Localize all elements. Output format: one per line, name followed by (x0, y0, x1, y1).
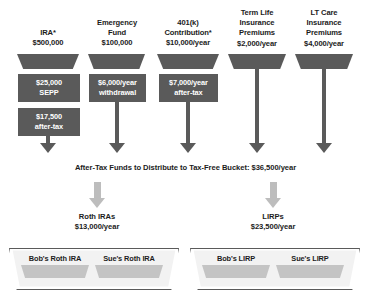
column-header-term-life-line-1: Term Life (220, 8, 294, 18)
column-header-term-life-line-4: $2,000/year (220, 39, 294, 49)
value-box-emergency-fund-withdrawal: $6,000/year withdrawal (89, 74, 146, 102)
value-box-emergency-fund-withdrawal-line-2: withdrawal (99, 88, 136, 99)
column-header-term-life-insurance-premiums: Term Life Insurance Premiums $2,000/year (220, 8, 294, 49)
arrow-down-icon-lt-care (316, 143, 332, 153)
sub-slot-bobs-roth-ira (21, 265, 89, 278)
column-header-ira-line-2: $500,000 (8, 38, 88, 48)
value-box-ira-sepp-line-1: $25,000 (36, 78, 62, 89)
mid-caption-after-tax-funds: After-Tax Funds to Distribute to Tax-Fre… (0, 163, 371, 172)
column-header-lt-care-line-2: Insurance (287, 18, 361, 28)
after-tax-funds-flow-diagram: IRA* $500,000 Emergency Fund $100,000 40… (0, 0, 371, 297)
column-header-emergency-fund-line-1: Emergency (78, 18, 156, 28)
column-header-401k-contribution-line-2: Contribution* (148, 28, 228, 38)
value-box-ira-after-tax-line-1: $17,500 (36, 112, 62, 123)
sub-slot-label-bobs-roth-ira: Bob's Roth IRA (20, 254, 90, 263)
arrow-down-icon-401k (180, 143, 196, 153)
column-header-401k-contribution-line-3: $10,000/year (148, 38, 228, 48)
arrow-down-icon-ira (40, 143, 56, 153)
destination-label-lirps: LIRPs $23,500/year (223, 212, 323, 233)
column-header-401k-contribution: 401(k) Contribution* $10,000/year (148, 18, 228, 49)
column-header-lt-care-insurance-premiums: LT Care Insurance Premiums $4,000/year (287, 8, 361, 49)
connector-stem-401k (186, 102, 190, 144)
sub-slot-sues-lirp (276, 265, 344, 278)
arrow-down-icon-emergency-fund (109, 143, 125, 153)
connector-stem-term-life (255, 69, 259, 144)
value-box-401k-after-tax-line-1: $7,000/year (169, 78, 208, 89)
column-header-lt-care-line-3: Premiums (287, 28, 361, 38)
source-bucket-401k-contribution (157, 54, 219, 69)
value-box-emergency-fund-withdrawal-line-1: $6,000/year (98, 78, 137, 89)
destination-stem-roth-iras (94, 182, 101, 199)
arrow-down-icon-term-life (249, 143, 265, 153)
column-header-ira: IRA* $500,000 (8, 28, 88, 48)
connector-stem-lt-care (322, 69, 326, 144)
sub-slot-label-sues-lirp: Sue's LIRP (275, 254, 345, 263)
destination-title-roth-iras: Roth IRAs (47, 212, 147, 222)
value-box-401k-after-tax: $7,000/year after-tax (159, 74, 218, 102)
sub-slot-sues-roth-ira (95, 265, 163, 278)
sub-slot-bobs-lirp (202, 265, 270, 278)
source-bucket-emergency-fund (88, 54, 145, 69)
column-header-emergency-fund: Emergency Fund $100,000 (78, 18, 156, 49)
column-header-lt-care-line-4: $4,000/year (287, 39, 361, 49)
column-header-lt-care-line-1: LT Care (287, 8, 361, 18)
sub-slot-label-sues-roth-ira: Sue's Roth IRA (94, 254, 164, 263)
column-header-401k-contribution-line-1: 401(k) (148, 18, 228, 28)
column-header-ira-line-1: IRA* (8, 28, 88, 38)
arrow-down-icon-roth-iras (89, 198, 105, 208)
value-box-401k-after-tax-line-2: after-tax (174, 88, 202, 99)
source-bucket-lt-care-insurance-premiums (295, 54, 353, 69)
column-header-term-life-line-2: Insurance (220, 18, 294, 28)
source-bucket-ira (17, 54, 79, 69)
destination-amount-lirps: $23,500/year (223, 222, 323, 232)
sub-slot-label-bobs-lirp: Bob's LIRP (201, 254, 271, 263)
value-box-ira-after-tax-line-2: after-tax (35, 122, 63, 133)
value-box-ira-sepp: $25,000 SEPP (18, 74, 80, 102)
column-header-emergency-fund-line-3: $100,000 (78, 38, 156, 48)
destination-label-roth-iras: Roth IRAs $13,000/year (47, 212, 147, 233)
value-box-ira-sepp-line-2: SEPP (39, 88, 58, 99)
arrow-down-icon-lirps (265, 198, 281, 208)
connector-stem-emergency-fund (115, 102, 119, 144)
destination-title-lirps: LIRPs (223, 212, 323, 222)
destination-stem-lirps (270, 182, 277, 199)
destination-amount-roth-iras: $13,000/year (47, 222, 147, 232)
source-bucket-term-life-insurance-premiums (228, 54, 286, 69)
value-box-ira-after-tax: $17,500 after-tax (18, 108, 80, 136)
column-header-term-life-line-3: Premiums (220, 28, 294, 38)
column-header-emergency-fund-line-2: Fund (78, 28, 156, 38)
